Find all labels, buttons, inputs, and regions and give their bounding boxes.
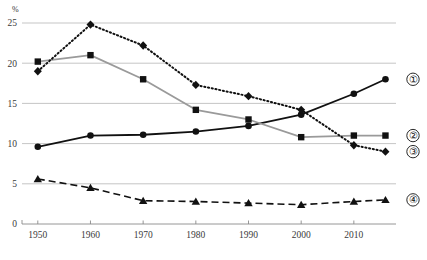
x-axis-line-group (22, 220, 396, 224)
xtick-label-1980: 1980 (186, 230, 205, 240)
series-line-4 (38, 179, 386, 205)
ytick-label-25: 25 (8, 18, 18, 28)
y-tick-labels-group: 0510152025 (8, 18, 18, 229)
series-line-2 (38, 55, 386, 137)
marker-3-2016 (381, 147, 389, 155)
marker-1-1980 (193, 128, 200, 135)
marker-2-1970 (140, 76, 146, 82)
marker-2-1960 (87, 52, 93, 58)
ytick-label-15: 15 (8, 99, 18, 109)
series-markers-group (34, 20, 390, 207)
legend-label-3[interactable]: ③ (409, 146, 418, 157)
marker-2-1990 (245, 116, 251, 122)
line-chart-canvas: 0510152025 1950196019701980199020002010 … (0, 0, 427, 260)
xtick-label-2000: 2000 (292, 230, 311, 240)
gridlines-group (22, 23, 396, 184)
ytick-label-0: 0 (12, 219, 17, 229)
chart-figure: 0510152025 1950196019701980199020002010 … (0, 0, 427, 260)
marker-2-2010 (351, 132, 357, 138)
marker-2-1980 (193, 107, 199, 113)
ytick-label-20: 20 (8, 59, 18, 69)
legend-group[interactable]: ①②③④ (407, 73, 419, 206)
y-axis-unit-label: % (12, 5, 19, 14)
marker-2-2000 (298, 134, 304, 140)
legend-label-1[interactable]: ① (409, 74, 418, 85)
series-lines-group (38, 25, 386, 205)
marker-1-1990 (245, 123, 252, 130)
xtick-label-1990: 1990 (239, 230, 258, 240)
marker-4-1950 (34, 175, 42, 182)
legend-label-2[interactable]: ② (409, 130, 418, 141)
marker-1-2016 (382, 76, 389, 83)
xtick-label-1960: 1960 (81, 230, 100, 240)
marker-3-1990 (245, 92, 253, 100)
marker-3-1980 (192, 81, 200, 89)
marker-1-1950 (35, 144, 42, 151)
marker-2-1950 (35, 58, 41, 64)
xtick-label-2010: 2010 (344, 230, 363, 240)
marker-1-1960 (87, 132, 94, 139)
xtick-label-1970: 1970 (134, 230, 153, 240)
x-tick-labels-group: 1950196019701980199020002010 (28, 230, 363, 240)
xtick-label-1950: 1950 (28, 230, 47, 240)
marker-1-2010 (351, 90, 358, 97)
legend-label-4[interactable]: ④ (409, 194, 418, 205)
ytick-label-10: 10 (8, 139, 18, 149)
marker-2-2016 (382, 132, 388, 138)
ytick-label-5: 5 (12, 179, 17, 189)
marker-1-1970 (140, 131, 147, 138)
